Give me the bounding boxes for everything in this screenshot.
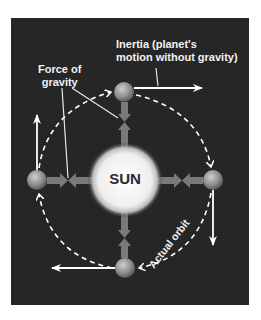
gravity-label-line2: gravity [38, 76, 81, 89]
planet-bottom [115, 258, 135, 278]
orbit-label: Actual orbit [146, 216, 192, 270]
inertia-label: Inertia (planet's motion without gravity… [116, 38, 238, 64]
planet-right [203, 170, 223, 190]
gravity-arrow-top-shaft [121, 102, 128, 116]
planet-left [27, 170, 47, 190]
inertia-label-line1: Inertia (planet's [116, 38, 238, 51]
inertia-label-line2: motion without gravity) [116, 51, 238, 64]
gravity-arrow-top-head-down [118, 114, 131, 122]
sun-label: SUN [95, 170, 155, 187]
planet-top [114, 82, 134, 102]
gravity-label: Force of gravity [38, 63, 81, 89]
gravity-label-line1: Force of [38, 63, 81, 76]
